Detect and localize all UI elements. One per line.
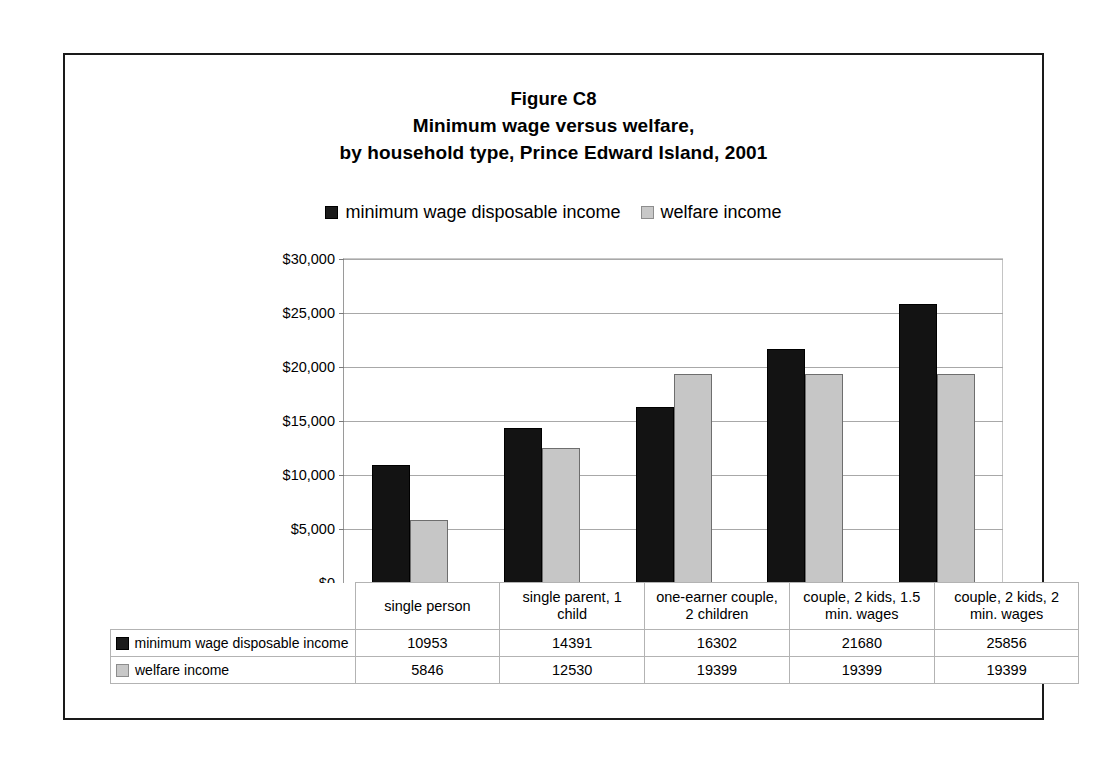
- dark-square-icon: [325, 206, 338, 219]
- category-label-1: single parent, 1 child: [500, 583, 645, 630]
- bar-welfare-2: [674, 374, 712, 584]
- figure-title-line-1: Figure C8: [65, 85, 1042, 112]
- figure-frame: Figure C8 Minimum wage versus welfare, b…: [63, 53, 1044, 720]
- bar-minimum-wage-1: [504, 428, 542, 583]
- y-tick-label-20000: $20,000: [283, 359, 335, 375]
- bar-minimum-wage-0: [372, 465, 410, 583]
- table-cell-r0-c3: 21680: [789, 630, 934, 657]
- series-label-cell-1: welfare income: [111, 657, 356, 684]
- y-tick-label-5000: $5,000: [291, 521, 335, 537]
- bar-minimum-wage-2: [636, 407, 674, 583]
- bars-layer: [344, 259, 1003, 583]
- bar-minimum-wage-4: [899, 304, 937, 583]
- table-row: welfare income584612530193991939919399: [111, 657, 1079, 684]
- table-cell-r0-c0: 10953: [355, 630, 500, 657]
- table-row-categories: single personsingle parent, 1 childone-e…: [111, 583, 1079, 630]
- y-tick-label-15000: $15,000: [283, 413, 335, 429]
- category-row-spacer: [111, 583, 356, 630]
- data-table: single personsingle parent, 1 childone-e…: [110, 582, 1079, 684]
- chart-legend: minimum wage disposable income welfare i…: [65, 202, 1042, 222]
- light-square-icon: [116, 664, 129, 677]
- category-label-3: couple, 2 kids, 1.5 min. wages: [789, 583, 934, 630]
- legend-entry-welfare: welfare income: [641, 202, 782, 222]
- bar-welfare-3: [805, 374, 843, 584]
- table-cell-r0-c2: 16302: [645, 630, 790, 657]
- legend-entry-minimum-wage: minimum wage disposable income: [325, 202, 620, 222]
- bar-welfare-1: [542, 448, 580, 583]
- figure-title-block: Figure C8 Minimum wage versus welfare, b…: [65, 85, 1042, 166]
- table-cell-r0-c4: 25856: [934, 630, 1079, 657]
- figure-title-line-2: Minimum wage versus welfare,: [65, 112, 1042, 139]
- legend-label-welfare: welfare income: [661, 202, 782, 222]
- y-tick-label-30000: $30,000: [283, 251, 335, 267]
- table-cell-r1-c2: 19399: [645, 657, 790, 684]
- table-row: minimum wage disposable income1095314391…: [111, 630, 1079, 657]
- table-cell-r1-c0: 5846: [355, 657, 500, 684]
- table-cell-r1-c1: 12530: [500, 657, 645, 684]
- y-tick-label-10000: $10,000: [283, 467, 335, 483]
- category-label-0: single person: [355, 583, 500, 630]
- category-label-2: one-earner couple, 2 children: [645, 583, 790, 630]
- bar-welfare-4: [937, 374, 975, 584]
- series-name-1: welfare income: [135, 662, 229, 678]
- bar-minimum-wage-3: [767, 349, 805, 583]
- series-name-0: minimum wage disposable income: [135, 635, 349, 651]
- table-cell-r0-c1: 14391: [500, 630, 645, 657]
- light-square-icon: [641, 206, 654, 219]
- category-label-4: couple, 2 kids, 2 min. wages: [934, 583, 1079, 630]
- bar-welfare-0: [410, 520, 448, 583]
- plot-area: $30,000$25,000$20,000$15,000$10,000$5,00…: [343, 258, 1003, 583]
- table-cell-r1-c4: 19399: [934, 657, 1079, 684]
- series-label-cell-0: minimum wage disposable income: [111, 630, 356, 657]
- legend-label-minimum-wage: minimum wage disposable income: [345, 202, 620, 222]
- figure-title-line-3: by household type, Prince Edward Island,…: [65, 139, 1042, 166]
- table-cell-r1-c3: 19399: [789, 657, 934, 684]
- dark-square-icon: [116, 637, 129, 650]
- y-tick-label-25000: $25,000: [283, 305, 335, 321]
